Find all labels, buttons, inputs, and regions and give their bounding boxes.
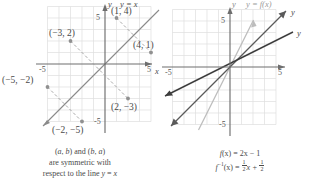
fraction-one-half-intercept: 12 <box>259 159 264 172</box>
y-tick-five: 5 <box>221 17 225 25</box>
caption-paren-close: ) <box>102 147 105 156</box>
y-label-lower: y <box>297 29 301 38</box>
y-axis-label: y <box>232 0 236 9</box>
inverse-function-equation: f−1(x) = 12x + 12 <box>160 159 320 173</box>
point-label-neg2-neg5: (−2, −5) <box>52 126 83 136</box>
x-tick-five: 5 <box>147 66 151 74</box>
point-label-neg3-2: (−3, 2) <box>49 29 75 39</box>
caption-and: ) and ( <box>70 147 91 156</box>
y-label-upper: y <box>291 8 295 17</box>
x-tick-negative-five: -5 <box>165 69 172 77</box>
y-tick-negative-five: -5 <box>94 118 101 126</box>
left-caption-line-3: respect to the line y = x <box>0 168 160 179</box>
x-tick-negative-five: -5 <box>39 66 46 74</box>
y-tick-negative-five: -5 <box>219 121 226 129</box>
caption-x: x <box>114 169 118 178</box>
point-label-neg5-neg2: (−5, −2) <box>2 76 33 86</box>
right-panel: -5 5 5 -5 y y = f(x) y y f(x) = 2x − 1 f… <box>160 0 320 182</box>
inverse-equals: (x) = <box>224 163 242 172</box>
point-label-2-neg3: (2, −3) <box>111 103 137 113</box>
frac2-numerator: 1 <box>259 159 264 166</box>
f-expression: (x) = 2x − 1 <box>222 149 260 158</box>
caption-respect-text: respect to the line <box>43 169 102 178</box>
left-caption-line-1: (a, b) and (b, a) <box>0 146 160 157</box>
right-caption: f(x) = 2x − 1 f−1(x) = 12x + 12 <box>160 148 320 173</box>
left-panel: -5 5 5 -5 x y y = x (1, 4) (4, 1) (−3, 2… <box>0 0 160 182</box>
x-tick-five: 5 <box>278 69 282 77</box>
inverse-variable: x + <box>247 163 260 172</box>
identity-line-y-equals-x <box>171 11 286 126</box>
point-label-1-4: (1, 4) <box>111 7 132 17</box>
left-caption: (a, b) and (b, a) are symmetric with res… <box>0 146 160 179</box>
function-equation: f(x) = 2x − 1 <box>160 148 320 159</box>
point-label-4-1: (4, 1) <box>133 41 154 51</box>
axes <box>36 8 152 133</box>
figure-container: -5 5 5 -5 x y y = x (1, 4) (4, 1) (−3, 2… <box>0 0 320 182</box>
inverse-function-plot <box>160 0 320 150</box>
x-axis-label: x <box>155 67 159 76</box>
left-caption-line-2: are symmetric with <box>0 157 160 168</box>
y-axis-arrow <box>102 4 107 11</box>
frac2-denominator: 2 <box>259 166 264 172</box>
caption-equals: = <box>105 169 114 178</box>
f-curve-label: y = f(x) <box>246 0 272 9</box>
y-tick-five: 5 <box>96 14 100 22</box>
